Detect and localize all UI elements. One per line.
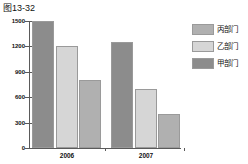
bar-chart: 030060090012001500 20062007 丙部门 乙部门 甲部门 <box>0 16 248 164</box>
y-tick-0 <box>25 148 29 149</box>
bar-2007-甲部门 <box>111 42 133 148</box>
bar-2006-乙部门 <box>56 46 78 148</box>
legend-item: 乙部门 <box>192 39 246 56</box>
y-tick-label-900: 900 <box>1 69 25 75</box>
y-axis-line <box>29 21 30 149</box>
y-tick-label-1500: 1500 <box>1 18 25 24</box>
figure-caption: 图13-32 <box>3 1 35 14</box>
y-tick-300 <box>25 123 29 124</box>
y-axis-labels: 030060090012001500 <box>0 16 25 156</box>
bar-2006-丙部门 <box>79 80 101 148</box>
y-tick-600 <box>25 97 29 98</box>
bar-2007-乙部门 <box>135 89 157 148</box>
legend-label-yi: 乙部门 <box>217 42 238 51</box>
legend-item: 丙部门 <box>192 22 246 39</box>
legend-swatch-yi <box>192 41 214 52</box>
x-axis-label-2006: 2006 <box>44 152 90 159</box>
y-tick-label-300: 300 <box>1 120 25 126</box>
y-tick-1500 <box>25 21 29 22</box>
bar-2007-丙部门 <box>158 114 180 148</box>
y-tick-1200 <box>25 46 29 47</box>
x-tick <box>184 148 185 151</box>
legend-item: 甲部门 <box>192 56 246 73</box>
x-tick <box>105 148 106 151</box>
x-axis-label-2007: 2007 <box>123 152 169 159</box>
legend-label-bing: 丙部门 <box>217 25 238 34</box>
y-tick-label-0: 0 <box>1 145 25 151</box>
y-tick-label-600: 600 <box>1 94 25 100</box>
legend-swatch-jia <box>192 58 214 69</box>
legend-swatch-bing <box>192 24 214 35</box>
y-tick-label-1200: 1200 <box>1 43 25 49</box>
chart-legend: 丙部门 乙部门 甲部门 <box>192 22 246 73</box>
y-tick-inner-0 <box>30 148 33 149</box>
bar-2006-甲部门 <box>32 21 54 148</box>
legend-label-jia: 甲部门 <box>217 59 238 68</box>
y-tick-900 <box>25 72 29 73</box>
